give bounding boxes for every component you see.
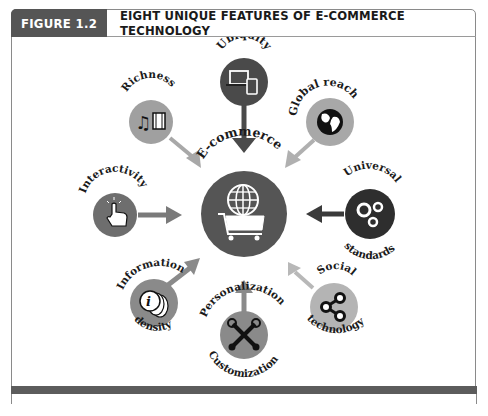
svg-text:♫: ♫ — [135, 112, 151, 133]
globe-icon — [317, 109, 343, 135]
feature-label-interactivity: Interactivity — [76, 162, 151, 195]
features-diagram: E-commerce Ubiquity ♫ Richness Global re… — [12, 37, 476, 386]
feature-richness: ♫ Richness — [119, 68, 179, 144]
feature-global-reach: Global reach — [286, 76, 361, 146]
arrow-global-reach — [285, 140, 314, 168]
arrow-universal-standards — [306, 205, 344, 223]
caption-clipped — [14, 407, 474, 416]
feature-label-ubiquity: Ubiquity — [214, 37, 275, 53]
feature-social-technology: Social technology — [305, 259, 367, 335]
feature-label-social: Social — [314, 259, 359, 277]
bottom-divider-bar — [11, 386, 477, 394]
feature-label-richness: Richness — [119, 68, 179, 94]
arrow-interactivity — [138, 206, 182, 224]
figure-title: EIGHT UNIQUE FEATURES OF E-COMMERCE TECH… — [120, 9, 463, 36]
frame-edge-right — [476, 394, 477, 404]
feature-label-standards: standards — [342, 239, 397, 261]
feature-universal-standards: Universal standards — [341, 159, 404, 262]
feature-label-universal: Universal — [341, 159, 404, 184]
svg-text:i: i — [146, 294, 151, 309]
feature-information-density: i Information density — [114, 256, 188, 333]
feature-interactivity: Interactivity — [76, 162, 151, 237]
figure-label: FIGURE 1.2 — [11, 9, 107, 37]
figure-header: FIGURE 1.2 EIGHT UNIQUE FEATURES OF E-CO… — [11, 9, 476, 37]
arrow-social-technology — [288, 262, 313, 288]
feature-ubiquity: Ubiquity — [214, 37, 275, 106]
frame-edge-left — [11, 394, 12, 404]
